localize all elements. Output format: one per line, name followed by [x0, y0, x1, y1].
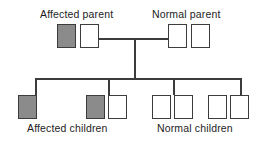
child-symbol-affected-1 [18, 95, 37, 119]
child-symbol-normal-3 [208, 95, 227, 119]
sibling-drop-1 [35, 78, 37, 95]
normal-parent-label: Normal parent [152, 8, 220, 20]
child-symbol-normal-4 [230, 95, 249, 119]
sibling-drop-4 [240, 78, 242, 95]
parent-symbol-affected-2 [80, 24, 99, 48]
child-symbol-affected-3 [108, 95, 127, 119]
parent-symbol-affected-1 [57, 24, 76, 48]
normal-children-label: Normal children [157, 122, 233, 134]
descent-line [134, 38, 136, 79]
parent-symbol-normal-1 [168, 24, 187, 48]
sibship-line [35, 78, 241, 80]
parent-symbol-normal-2 [191, 24, 210, 48]
affected-parent-label: Affected parent [40, 8, 113, 20]
child-symbol-affected-2 [86, 95, 105, 119]
affected-children-label: Affected children [27, 122, 108, 134]
child-symbol-normal-2 [174, 95, 193, 119]
pedigree-diagram: Affected parent Normal parent Affected c… [0, 0, 277, 143]
child-symbol-normal-1 [152, 95, 171, 119]
sibling-drop-2 [108, 78, 110, 95]
sibling-drop-3 [173, 78, 175, 95]
